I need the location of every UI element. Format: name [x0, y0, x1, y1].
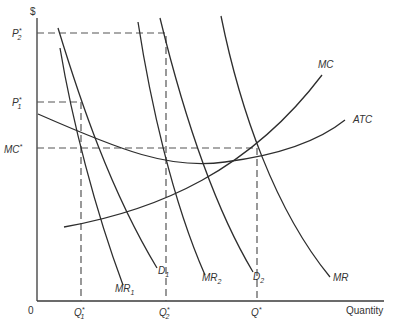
mc-q-guide — [37, 148, 257, 301]
atc-curve — [38, 114, 345, 164]
q1-star-label: Q*1 — [74, 306, 84, 320]
q2-star-label: Q*2 — [159, 306, 169, 320]
mr1-label: MR1 — [115, 284, 134, 296]
mc-label: MC — [318, 60, 334, 70]
p2-star-label: P*2 — [12, 27, 21, 41]
origin-label: 0 — [28, 306, 34, 316]
d2-label: D2 — [253, 272, 264, 284]
d2-curve — [160, 18, 253, 272]
mr1-curve — [60, 48, 123, 285]
x-axis-label: Quantity — [346, 306, 383, 316]
d1-label: D1 — [158, 266, 169, 278]
p1-star-label: P*1 — [12, 96, 21, 110]
q-star-label: Q* — [251, 306, 262, 318]
mr-curve — [221, 16, 330, 277]
y-axis-label: $ — [30, 7, 36, 17]
p1-q1-guide — [37, 102, 81, 301]
mr2-label: MR2 — [202, 273, 221, 285]
mc-star-label: MC* — [4, 143, 22, 155]
mr-label: MR — [333, 273, 349, 283]
atc-label: ATC — [353, 115, 372, 125]
